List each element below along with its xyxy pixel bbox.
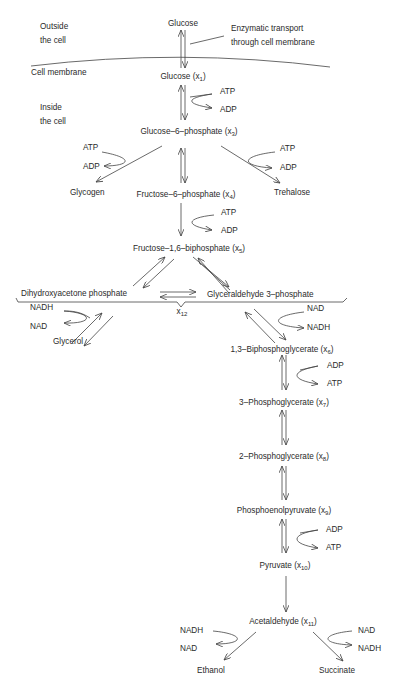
- cofactor-adp: ADP: [326, 525, 343, 535]
- node-acetaldehyde-x11: Acetaldehyde (x11): [249, 617, 317, 629]
- node-glycerol: Glycerol: [53, 337, 83, 347]
- node-phosphoenolpyruvate-x9: Phosphoenolpyruvate (x9): [237, 506, 331, 518]
- cofactor-nad: NAD: [30, 322, 47, 332]
- node-glucose-outside: Glucose: [168, 19, 198, 29]
- node-glycogen: Glycogen: [70, 188, 105, 198]
- cofactor-atp: ATP: [326, 543, 341, 553]
- cofactor-atp: ATP: [220, 87, 235, 97]
- cofactor-nad: NAD: [358, 626, 375, 636]
- node-fructose-6-phosphate-x4: Fructose–6–phosphate (x4): [137, 190, 236, 202]
- cofactor-adp: ADP: [220, 105, 237, 115]
- inside-label-2: the cell: [40, 117, 66, 127]
- cofactor-adp: ADP: [83, 162, 100, 172]
- cofactor-adp: ADP: [327, 361, 344, 371]
- transport-label-2: through cell membrane: [231, 38, 315, 48]
- node-trehalose: Trehalose: [274, 188, 310, 198]
- node-ethanol: Ethanol: [197, 666, 225, 676]
- transport-label: Enzymatic transport: [231, 24, 303, 34]
- node-fructose-1-6-biphosphate-x5: Fructose–1,6–biphosphate (x5): [133, 244, 245, 256]
- cofactor-atp: ATP: [83, 143, 98, 153]
- cell-membrane-line: [31, 57, 330, 67]
- cofactor-adp: ADP: [221, 226, 238, 236]
- node-dihydroxyacetone-phosphate: Dihydroxyacetone phosphate: [21, 289, 127, 299]
- cofactor-adp: ADP: [280, 163, 297, 173]
- cofactor-nadh: NADH: [30, 303, 53, 313]
- outside-label: Outside: [40, 22, 68, 32]
- node-glucose-x1: Glucose (x1): [160, 72, 205, 84]
- cofactor-atp: ATP: [221, 208, 236, 218]
- cofactor-nadh: NADH: [180, 626, 203, 636]
- outside-label-2: the cell: [40, 36, 66, 46]
- cofactor-nadh: NADH: [358, 644, 381, 654]
- cofactor-nad: NAD: [180, 644, 197, 654]
- node-1-3-biphosphoglycerate-x6: 1,3–Biphosphoglycerate (x6): [230, 345, 333, 357]
- cofactor-nad: NAD: [307, 304, 324, 314]
- node-succinate: Succinate: [319, 666, 355, 676]
- node-2-phosphoglycerate-x8: 2–Phosphoglycerate (x8): [239, 452, 329, 464]
- node-glyceraldehyde-3-phosphate: Glyceraldehyde 3–phosphate: [207, 290, 314, 300]
- node-3-phosphoglycerate-x7: 3–Phosphoglycerate (x7): [239, 398, 329, 410]
- cofactor-atp: ATP: [327, 379, 342, 389]
- cell-membrane-label: Cell membrane: [31, 68, 87, 78]
- node-pyruvate-x10: Pyruvate (x10): [260, 561, 311, 573]
- inside-label: Inside: [40, 103, 62, 113]
- cofactor-nadh: NADH: [307, 323, 330, 333]
- node-x12: x12: [177, 307, 188, 319]
- cofactor-atp: ATP: [280, 144, 295, 154]
- node-glucose-6-phosphate-x3: Glucose–6–phosphate (x3): [140, 127, 237, 139]
